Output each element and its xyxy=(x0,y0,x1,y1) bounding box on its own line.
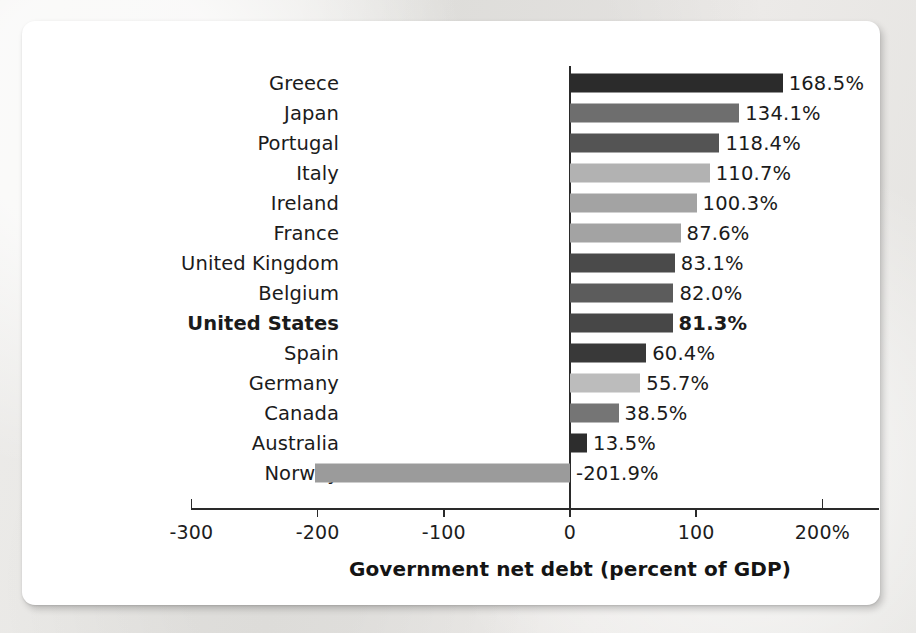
x-axis-tick xyxy=(191,499,193,509)
bar-row: Portugal118.4% xyxy=(22,128,880,158)
category-label: Greece xyxy=(269,72,339,95)
bar-row: United States81.3% xyxy=(22,308,880,338)
bar xyxy=(570,254,675,273)
bar-row: Australia13.5% xyxy=(22,428,880,458)
chart-card: -300-200-1000100200% Greece168.5%Japan13… xyxy=(22,21,880,605)
category-label: United States xyxy=(187,312,339,335)
bar-value-label: 110.7% xyxy=(716,162,792,185)
category-label: Japan xyxy=(284,102,339,125)
bar-row: Norway-201.9% xyxy=(22,458,880,488)
bar xyxy=(315,464,570,483)
category-label: Belgium xyxy=(258,282,339,305)
bar xyxy=(570,134,719,153)
bar-value-label: 55.7% xyxy=(646,372,709,395)
category-label: Portugal xyxy=(257,132,339,155)
bar-row: Spain60.4% xyxy=(22,338,880,368)
x-axis-tick-label: -300 xyxy=(169,521,213,543)
bar xyxy=(570,314,673,333)
x-axis-tick-label: -200 xyxy=(296,521,340,543)
bar xyxy=(570,284,673,303)
bar-row: Italy110.7% xyxy=(22,158,880,188)
bar xyxy=(570,164,710,183)
x-axis-tick-label: -100 xyxy=(422,521,466,543)
bar-row: Ireland100.3% xyxy=(22,188,880,218)
bar-value-label: 13.5% xyxy=(593,432,656,455)
category-label: Australia xyxy=(252,432,339,455)
x-axis-tick-label: 200% xyxy=(795,521,850,543)
bar xyxy=(570,344,646,363)
bar-value-label: 38.5% xyxy=(625,402,688,425)
category-label: United Kingdom xyxy=(181,252,339,275)
bar xyxy=(570,74,783,93)
bar-row: Belgium82.0% xyxy=(22,278,880,308)
bar xyxy=(570,434,587,453)
bar xyxy=(570,104,739,123)
bar-value-label: 168.5% xyxy=(789,72,865,95)
bar-value-label: 60.4% xyxy=(652,342,715,365)
bar-value-label: -201.9% xyxy=(576,462,659,485)
bar xyxy=(570,374,640,393)
x-axis-tick-label: 100 xyxy=(678,521,715,543)
bar-value-label: 134.1% xyxy=(745,102,821,125)
x-axis-tick xyxy=(317,508,319,517)
bar-row: United Kingdom83.1% xyxy=(22,248,880,278)
bar xyxy=(570,224,681,243)
x-axis-tick xyxy=(822,499,824,509)
x-axis-tick-label: 0 xyxy=(564,521,576,543)
bar-value-label: 82.0% xyxy=(679,282,742,305)
x-axis-tick xyxy=(569,508,571,517)
bar-row: France87.6% xyxy=(22,218,880,248)
category-label: Spain xyxy=(284,342,339,365)
category-label: Italy xyxy=(296,162,339,185)
bar-row: Germany55.7% xyxy=(22,368,880,398)
category-label: France xyxy=(274,222,339,245)
x-axis-title: Government net debt (percent of GDP) xyxy=(349,557,791,581)
x-axis-tick xyxy=(695,508,697,517)
bar-value-label: 81.3% xyxy=(679,312,748,335)
bar-value-label: 87.6% xyxy=(687,222,750,245)
category-label: Canada xyxy=(264,402,339,425)
bar-chart-plot-area: -300-200-1000100200% Greece168.5%Japan13… xyxy=(22,21,880,605)
bar-row: Canada38.5% xyxy=(22,398,880,428)
category-label: Germany xyxy=(249,372,339,395)
bar-value-label: 100.3% xyxy=(703,192,779,215)
bar-value-label: 118.4% xyxy=(725,132,801,155)
category-label: Ireland xyxy=(271,192,339,215)
bar-row: Japan134.1% xyxy=(22,98,880,128)
x-axis-line xyxy=(191,508,879,510)
bar-value-label: 83.1% xyxy=(681,252,744,275)
bar xyxy=(570,194,697,213)
bar xyxy=(570,404,619,423)
x-axis-tick xyxy=(443,508,445,517)
bar-row: Greece168.5% xyxy=(22,68,880,98)
